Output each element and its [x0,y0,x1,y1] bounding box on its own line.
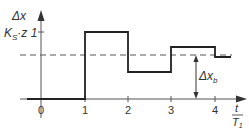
x-axis-label-den: T1 [232,116,243,129]
step-response-diagram: Δx KS·z 1 0 1 2 3 4 Δxb t T1 [0,0,249,135]
x-axis-label-num: t [235,102,239,114]
y-axis-label: Δx [11,9,27,23]
x-tick-label-0: 0 [38,104,44,116]
x-tick-label-1: 1 [82,104,88,116]
y-axis-arrow-icon [38,10,45,21]
x-tick-label-2: 2 [125,104,131,116]
ks-level-label: KS·z 1 [4,26,37,42]
x-tick-label-4: 4 [212,104,218,116]
delta-xb-label: Δxb [198,69,218,85]
delta-xb-arrow-down-icon [194,92,199,99]
step-signal [27,32,231,99]
x-tick-label-3: 3 [168,104,174,116]
delta-xb-arrow-up-icon [194,55,199,62]
